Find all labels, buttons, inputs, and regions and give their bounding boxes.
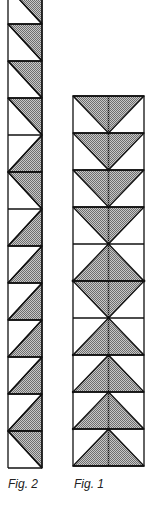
fig2-block-12 bbox=[8, 394, 42, 431]
fig1-strip bbox=[72, 96, 146, 466]
fig2-block-11 bbox=[8, 357, 42, 394]
quilt-diagram bbox=[0, 0, 155, 511]
fig2-block-1 bbox=[8, 0, 42, 24]
fig2-strip bbox=[8, 0, 42, 468]
fig2-block-3 bbox=[8, 61, 42, 98]
fig2-block-4 bbox=[8, 98, 42, 135]
fig2-block-6 bbox=[8, 172, 42, 209]
fig2-block-8 bbox=[8, 246, 42, 283]
fig2-block-13 bbox=[8, 431, 42, 468]
fig2-block-5 bbox=[8, 135, 42, 172]
fig2-caption: Fig. 2 bbox=[8, 477, 38, 491]
fig2-block-9 bbox=[8, 283, 42, 320]
fig2-block-2 bbox=[8, 24, 42, 61]
fig2-block-10 bbox=[8, 320, 42, 357]
fig1-caption: Fig. 1 bbox=[74, 477, 104, 491]
fig2-block-7 bbox=[8, 209, 42, 246]
